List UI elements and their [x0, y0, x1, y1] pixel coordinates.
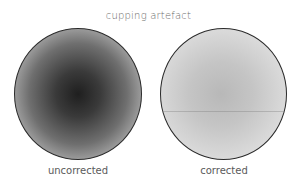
ring-artifact-line — [161, 111, 286, 112]
uncorrected-disc-image — [14, 28, 142, 160]
uncorrected-label: uncorrected — [13, 165, 143, 176]
corrected-disc-image — [160, 28, 287, 160]
figure-title: cupping artefact — [0, 10, 297, 21]
corrected-label: corrected — [159, 165, 289, 176]
